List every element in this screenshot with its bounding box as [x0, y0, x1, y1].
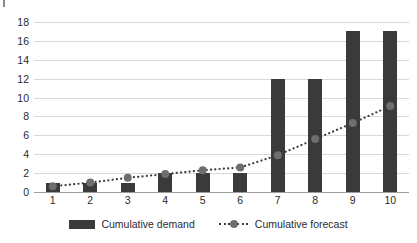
x-axis-line — [34, 192, 409, 193]
x-axis-tick-label-7: 7 — [275, 195, 281, 206]
y-axis-tick-label-18: 18 — [17, 17, 29, 28]
x-axis-tick-label-2: 2 — [87, 195, 93, 206]
legend-item-cumulative-forecast: Cumulative forecast — [219, 219, 348, 230]
legend-label-cumulative-forecast: Cumulative forecast — [255, 219, 348, 230]
crop-artifact-mark — [3, 0, 5, 7]
forecast-marker-3 — [124, 174, 132, 182]
dotted-line-swatch-icon — [219, 219, 249, 229]
y-axis-tick-label-6: 6 — [23, 130, 29, 141]
y-axis-tick-label-10: 10 — [17, 92, 29, 103]
forecast-marker-6 — [236, 163, 244, 171]
forecast-marker-1 — [49, 182, 57, 190]
legend-item-cumulative-demand: Cumulative demand — [69, 219, 194, 230]
x-axis-tick-label-8: 8 — [312, 195, 318, 206]
y-axis-tick-label-16: 16 — [17, 36, 29, 47]
y-axis-tick-label-0: 0 — [23, 187, 29, 198]
forecast-marker-8 — [311, 135, 319, 143]
y-axis-tick-label-8: 8 — [23, 111, 29, 122]
x-axis-tick-label-6: 6 — [237, 195, 243, 206]
y-axis-tick-label-12: 12 — [17, 73, 29, 84]
legend-label-cumulative-demand: Cumulative demand — [101, 219, 194, 230]
forecast-marker-5 — [199, 166, 207, 174]
x-axis-tick-label-9: 9 — [350, 195, 356, 206]
x-axis-tick-label-4: 4 — [162, 195, 168, 206]
bar-swatch-icon — [69, 220, 95, 229]
forecast-marker-2 — [86, 179, 94, 187]
forecast-dotted-path — [53, 106, 391, 186]
y-axis-tick-label-4: 4 — [23, 149, 29, 160]
x-axis-tick-label-1: 1 — [50, 195, 56, 206]
forecast-marker-9 — [349, 119, 357, 127]
y-axis-tick-label-14: 14 — [17, 55, 29, 66]
chart-container: 181614121086420 12345678910 Cumulative d… — [0, 0, 417, 243]
y-axis-tick-label-2: 2 — [23, 168, 29, 179]
forecast-marker-7 — [274, 151, 282, 159]
forecast-marker-4 — [161, 170, 169, 178]
chart-legend: Cumulative demand Cumulative forecast — [0, 219, 417, 230]
x-axis-tick-label-3: 3 — [125, 195, 131, 206]
line-series-cumulative-forecast — [34, 22, 409, 192]
x-axis-tick-label-10: 10 — [384, 195, 396, 206]
forecast-marker-10 — [386, 102, 394, 110]
y-axis-labels: 181614121086420 — [0, 22, 29, 192]
x-axis-tick-label-5: 5 — [200, 195, 206, 206]
x-axis-labels: 12345678910 — [34, 195, 409, 211]
plot-area — [34, 22, 409, 192]
